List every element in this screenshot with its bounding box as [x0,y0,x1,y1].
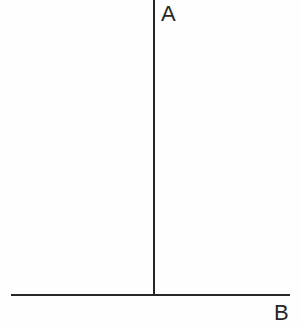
vertical-axis-label: A [161,3,176,25]
axis-diagram: A B [0,0,300,327]
horizontal-axis-label: B [274,302,289,324]
axis-drawing-canvas [0,0,300,327]
diagram-background [0,0,300,327]
